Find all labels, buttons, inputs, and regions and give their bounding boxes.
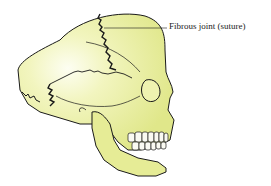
teeth bbox=[128, 132, 168, 150]
suture-label: Fibrous joint (suture) bbox=[169, 21, 246, 32]
eye-orbit bbox=[142, 80, 161, 102]
